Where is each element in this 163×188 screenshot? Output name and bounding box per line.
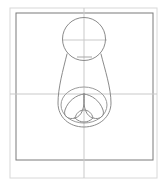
technical-drawing-svg xyxy=(0,0,163,188)
drawing-canvas xyxy=(0,0,163,188)
